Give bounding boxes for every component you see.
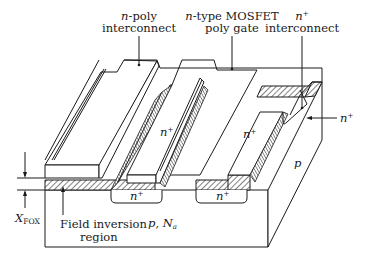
label-n-poly-line2: interconnect	[102, 21, 176, 35]
label-mosfet-gate-line2: poly gate	[205, 21, 259, 35]
label-substrate: p, Na	[148, 216, 177, 231]
label-field-inversion: Field inversion	[60, 217, 148, 231]
label-p-side: p	[294, 156, 302, 170]
mosfet-field-oxide-diagram: n-poly interconnect n-type MOSFET poly g…	[0, 0, 370, 260]
xfox-dimension	[17, 152, 45, 208]
label-field-inversion-line2: region	[80, 230, 118, 244]
label-xfox: XFOX	[14, 211, 40, 226]
label-nplus-interconnect-line2: interconnect	[265, 21, 339, 35]
label-nplus-right: n+	[340, 111, 353, 125]
